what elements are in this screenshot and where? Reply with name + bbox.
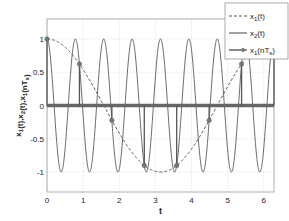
y-tick-label: -0.5 [30, 135, 44, 144]
stem-marker [174, 163, 178, 167]
x-tick-label: 6 [262, 196, 267, 205]
x-tick-label: 5 [225, 196, 230, 205]
stem-marker [207, 118, 211, 122]
legend-label: x1(t) [250, 12, 265, 22]
legend-label: x1(nTs) [250, 46, 275, 56]
stem-marker [239, 62, 243, 66]
chart-container: 0123456-1-0.500.51tx1(t),x2(t),x1(nTs)x1… [0, 0, 289, 221]
stem-marker [77, 62, 81, 66]
stem-marker [142, 163, 146, 167]
y-tick-label: -1 [37, 168, 45, 177]
x-axis-label: t [159, 206, 162, 216]
x-tick-label: 2 [117, 196, 122, 205]
x-tick-label: 1 [81, 196, 86, 205]
legend-swatch-marker [241, 48, 245, 52]
legend-label: x2(t) [250, 29, 265, 39]
y-axis-label: x1(t),x2(t),x1(nTs) [14, 74, 31, 137]
y-tick-label: 1 [40, 35, 45, 44]
x-tick-label: 0 [45, 196, 50, 205]
line-chart: 0123456-1-0.500.51tx1(t),x2(t),x1(nTs)x1… [0, 0, 289, 221]
y-tick-label: 0 [40, 102, 45, 111]
x-tick-label: 3 [153, 196, 158, 205]
y-tick-label: 0.5 [33, 68, 45, 77]
stem-marker [110, 118, 114, 122]
stem-marker [45, 37, 49, 41]
x-tick-label: 4 [189, 196, 194, 205]
